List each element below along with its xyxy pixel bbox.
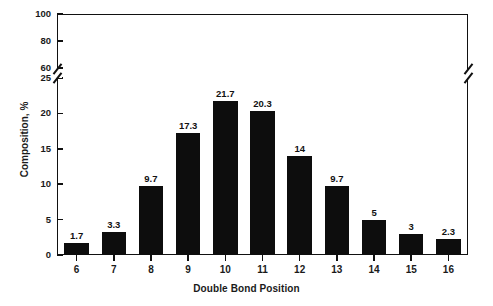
bar-value-label-16: 2.3 (442, 227, 455, 237)
x-tick-label-10: 10 (205, 264, 245, 275)
bar-group-9: 17.3 (176, 15, 201, 255)
y-tick-label-60: 60 (11, 63, 51, 73)
x-tick-label-9: 9 (168, 264, 208, 275)
bar-8[interactable] (139, 186, 164, 255)
x-tick-label-15: 15 (391, 264, 431, 275)
bar-group-7: 3.3 (102, 15, 127, 255)
bars-layer: 1.73.39.717.321.720.3149.7532.3 (58, 15, 467, 255)
y-tick-label-0: 0 (11, 250, 51, 260)
x-tick-14 (373, 255, 375, 261)
x-tick-label-12: 12 (280, 264, 320, 275)
x-axis-title: Double Bond Position (0, 283, 493, 294)
x-tick-label-16: 16 (428, 264, 468, 275)
bar-chart-figure: Composition, % 05101520256080100 1.73.39… (0, 0, 493, 306)
x-tick-13 (336, 255, 338, 261)
y-tick-label-20: 20 (11, 108, 51, 118)
bar-9[interactable] (176, 133, 201, 255)
bar-12[interactable] (287, 156, 312, 255)
bar-15[interactable] (399, 234, 424, 255)
y-tick-label-10: 10 (11, 179, 51, 189)
bar-value-label-13: 9.7 (330, 174, 343, 184)
bar-value-label-12: 14 (294, 144, 305, 154)
x-tick-16 (448, 255, 450, 261)
bar-6[interactable] (64, 243, 89, 255)
bar-value-label-11: 20.3 (253, 99, 272, 109)
bar-group-16: 2.3 (436, 15, 461, 255)
y-tick-label-80: 80 (11, 36, 51, 46)
bar-value-label-6: 1.7 (70, 231, 83, 241)
x-tick-7 (113, 255, 115, 261)
bar-value-label-10: 21.7 (216, 89, 235, 99)
x-tick-9 (187, 255, 189, 261)
x-tick-label-14: 14 (354, 264, 394, 275)
bar-value-label-14: 5 (371, 208, 376, 218)
bar-group-12: 14 (287, 15, 312, 255)
x-tick-label-13: 13 (317, 264, 357, 275)
y-tick-20 (57, 113, 63, 115)
y-tick-label-5: 5 (11, 215, 51, 225)
y-tick-label-15: 15 (11, 144, 51, 154)
bar-value-label-15: 3 (409, 222, 414, 232)
y-tick-0 (57, 254, 63, 256)
y-tick-10 (57, 183, 63, 185)
y-tick-5 (57, 219, 63, 221)
x-tick-label-8: 8 (131, 264, 171, 275)
bar-11[interactable] (250, 111, 275, 255)
bar-7[interactable] (102, 232, 127, 255)
x-tick-label-7: 7 (94, 264, 134, 275)
bar-13[interactable] (325, 186, 350, 255)
bar-group-15: 3 (399, 15, 424, 255)
x-tick-15 (410, 255, 412, 261)
y-tick-label-25: 25 (11, 73, 51, 83)
x-tick-12 (299, 255, 301, 261)
bar-group-14: 5 (362, 15, 387, 255)
x-tick-label-6: 6 (57, 264, 97, 275)
bar-14[interactable] (362, 220, 387, 255)
bar-value-label-9: 17.3 (179, 121, 198, 131)
x-tick-8 (150, 255, 152, 261)
x-tick-10 (225, 255, 227, 261)
bar-value-label-7: 3.3 (107, 220, 120, 230)
bar-group-8: 9.7 (139, 15, 164, 255)
y-tick-label-100: 100 (11, 9, 51, 19)
y-tick-15 (57, 148, 63, 150)
bar-group-10: 21.7 (213, 15, 238, 255)
bar-group-13: 9.7 (325, 15, 350, 255)
bar-10[interactable] (213, 101, 238, 255)
x-tick-6 (76, 255, 78, 261)
y-tick-80 (57, 40, 63, 42)
y-tick-100 (57, 13, 63, 15)
x-tick-11 (262, 255, 264, 261)
x-tick-label-11: 11 (243, 264, 283, 275)
bar-group-6: 1.7 (64, 15, 89, 255)
bar-16[interactable] (436, 239, 461, 255)
bar-value-label-8: 9.7 (144, 174, 157, 184)
bar-group-11: 20.3 (250, 15, 275, 255)
